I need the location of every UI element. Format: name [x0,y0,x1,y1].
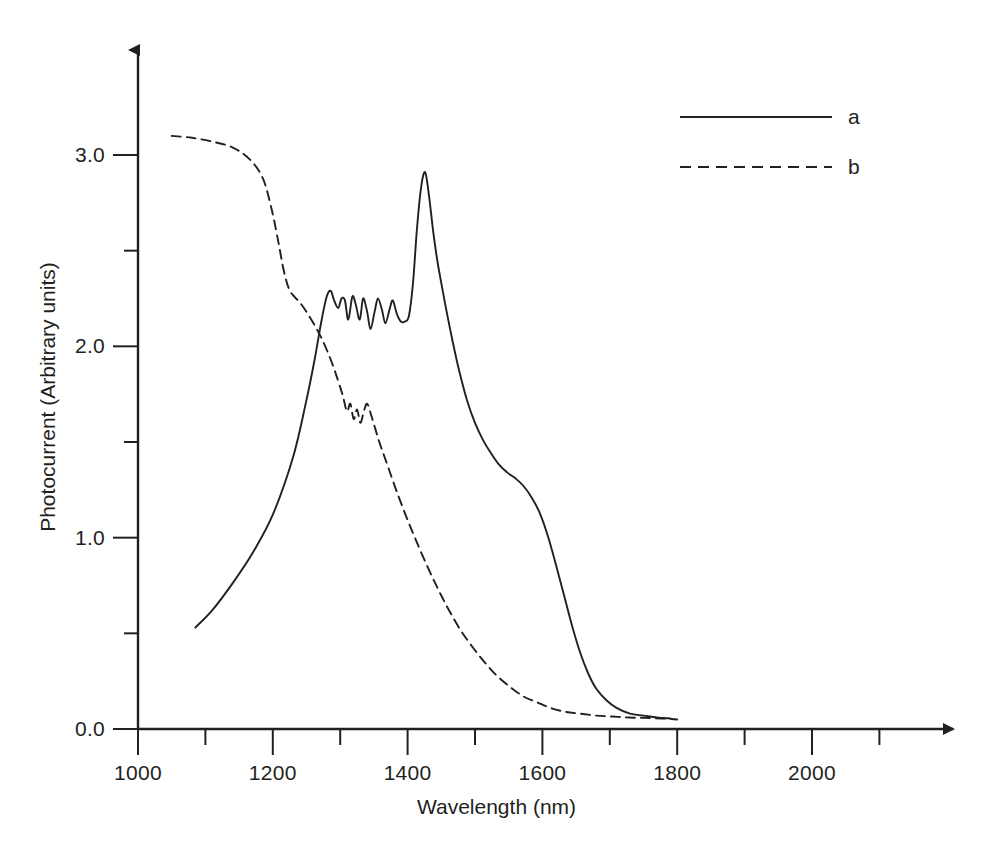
series-line-b [172,136,678,720]
x-tick-label: 1000 [114,761,162,785]
y-tick-label: 2.0 [20,334,105,358]
legend-label-b: b [848,155,860,179]
y-axis-title: Photocurrent (Arbitrary units) [36,87,60,707]
y-tick-label: 3.0 [20,143,105,167]
data-series-layer [172,136,678,720]
legend-label-a: a [848,105,860,129]
plot-canvas [0,0,993,852]
y-tick-label: 1.0 [20,526,105,550]
x-tick-label: 1200 [249,761,297,785]
y-axis-ticks [113,155,138,729]
y-tick-label: 0.0 [20,717,105,741]
x-tick-label: 1800 [653,761,701,785]
axis-lines [138,50,953,729]
x-axis-title: Wavelength (nm) [0,795,993,819]
series-line-a [195,172,670,718]
chart-figure: 0.01.02.03.0100012001400160018002000 Wav… [0,0,993,852]
x-tick-label: 1600 [518,761,566,785]
legend-sample-lines [680,117,832,167]
x-axis-ticks [138,729,879,755]
x-tick-label: 2000 [788,761,836,785]
x-tick-label: 1400 [384,761,432,785]
